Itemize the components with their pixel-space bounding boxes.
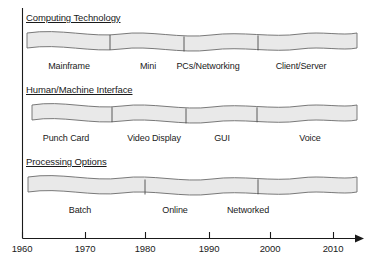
axis-tick-label-1980: 1980	[135, 243, 156, 254]
segment-label-gui: GUI	[214, 133, 230, 143]
band-computing-technology	[27, 32, 357, 52]
x-axis-arrowhead	[355, 235, 364, 243]
segment-label-batch: Batch	[69, 205, 92, 215]
axis-tick-label-1990: 1990	[199, 243, 220, 254]
band-title-computing-technology: Computing Technology	[26, 12, 120, 23]
axis-tick-label-1960: 1960	[12, 243, 33, 254]
segment-label-online: Online	[162, 205, 187, 215]
band-processing-options	[28, 176, 357, 195]
segment-label-punch-card: Punch Card	[43, 133, 90, 143]
band-title-processing-options: Processing Options	[26, 156, 107, 167]
figure-caption	[0, 256, 371, 267]
timeline-figure: Computing Technology Human/Machine Inter…	[0, 0, 371, 267]
segment-label-networked: Networked	[227, 205, 269, 215]
segment-label-video-display: Video Display	[127, 133, 181, 143]
band-human-machine-interface	[32, 104, 357, 124]
segment-label-voice: Voice	[299, 133, 321, 143]
band-3-ribbon	[28, 176, 357, 195]
segment-label-mini: Mini	[140, 61, 156, 71]
segment-label-mainframe: Mainframe	[48, 61, 90, 71]
axis-tick-label-2010: 2010	[323, 243, 344, 254]
band-title-human-machine-interface: Human/Machine Interface	[26, 84, 132, 95]
axis-tick-label-2000: 2000	[260, 243, 281, 254]
segment-label-client-server: Client/Server	[276, 61, 327, 71]
x-axis-ticks	[23, 232, 334, 239]
band-2-ribbon	[32, 104, 357, 123]
segment-label-pcs-networking: PCs/Networking	[176, 61, 239, 71]
axis-tick-label-1970: 1970	[75, 243, 96, 254]
band-1-ribbon	[27, 32, 357, 51]
